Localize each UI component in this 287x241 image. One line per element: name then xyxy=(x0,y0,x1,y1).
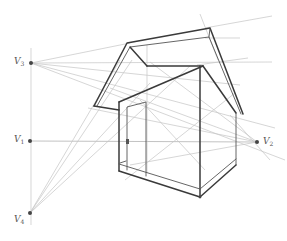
perspective-diagram xyxy=(0,0,287,241)
base-corner-dot xyxy=(199,196,202,199)
v4-dot xyxy=(28,211,32,215)
house xyxy=(119,66,236,198)
roof xyxy=(94,28,243,114)
v3-dot xyxy=(29,61,33,65)
guide-front-diagonal xyxy=(125,93,235,180)
guide-v2-b xyxy=(150,62,257,142)
v2-dot xyxy=(255,140,259,144)
base-left-edge xyxy=(119,171,200,197)
v2-label: V2 xyxy=(263,137,273,147)
v1-dot xyxy=(28,139,32,143)
guide-v4-b xyxy=(30,60,132,213)
door-handle-icon xyxy=(126,139,129,144)
guide-v3-lower xyxy=(31,63,285,160)
roof-corner-edge xyxy=(209,28,210,37)
base-right-edge xyxy=(200,165,236,197)
plinth-left-line xyxy=(119,164,200,189)
v4-label: V4 xyxy=(14,215,24,225)
roof-hip-edge xyxy=(130,47,147,66)
gable-left-slope xyxy=(119,66,203,102)
horizon-line xyxy=(30,141,257,142)
guide-v3-roof-top xyxy=(31,43,130,63)
v1-label: V1 xyxy=(14,135,24,145)
guide-roof-ridge-extension xyxy=(205,16,272,28)
v3-label: V3 xyxy=(14,57,24,67)
guide-v3-low xyxy=(31,63,275,128)
construction-lines xyxy=(30,14,285,225)
guide-v2-c xyxy=(88,108,257,142)
door-step xyxy=(120,161,126,163)
door-frame xyxy=(127,102,146,176)
plinth-right-line xyxy=(200,159,236,189)
vanishing-points xyxy=(28,61,259,215)
guide-v2-d xyxy=(130,142,257,165)
roof-eave-left xyxy=(94,106,119,110)
guide-cross-diagonal xyxy=(140,100,205,170)
guide-v4-c xyxy=(30,83,150,213)
